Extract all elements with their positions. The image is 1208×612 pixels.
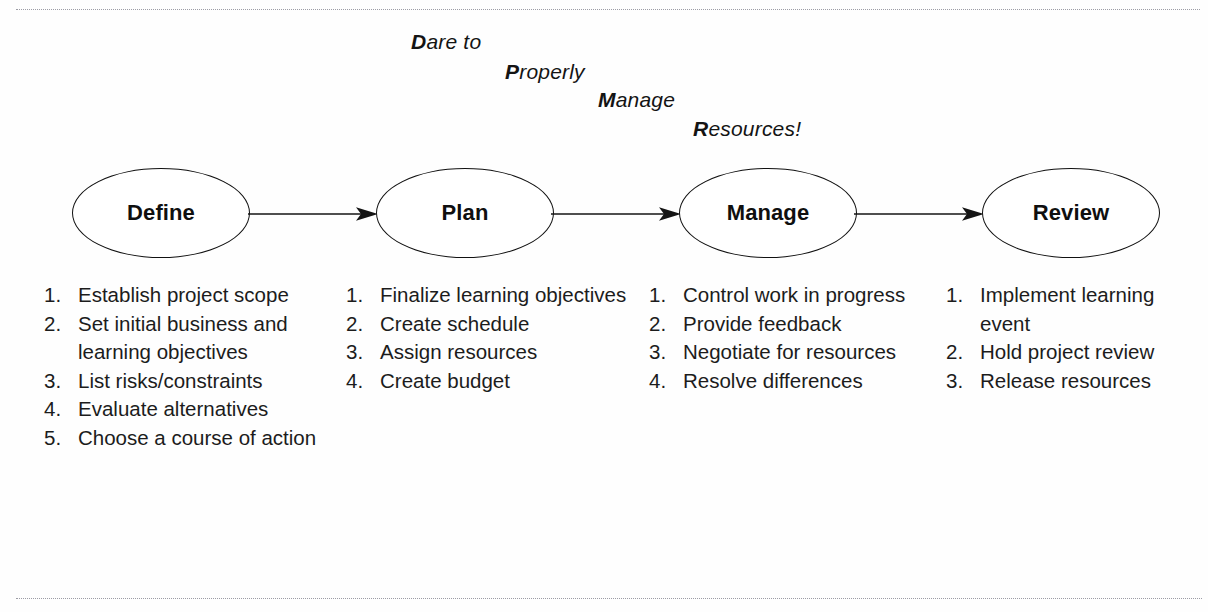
list-item-number: 4. <box>649 367 675 396</box>
mnemonic-initial: M <box>598 88 616 111</box>
list-item-label: Choose a course of action <box>78 424 334 453</box>
list-item-number: 1. <box>44 281 70 310</box>
mnemonic-line-resources: Resources! <box>693 117 801 141</box>
list-item-label: List risks/constraints <box>78 367 334 396</box>
list-item: 2.Hold project review <box>946 338 1208 367</box>
flow-node-label: Define <box>72 168 250 258</box>
list-item-number: 3. <box>44 367 70 396</box>
list-item: 3.Negotiate for resources <box>649 338 939 367</box>
list-item-label: Resolve differences <box>683 367 939 396</box>
mnemonic-line-properly: Properly <box>505 60 585 84</box>
list-item-label: Establish project scope <box>78 281 334 310</box>
arrow-plan-to-manage <box>551 206 683 222</box>
list-item: 2.Set initial business and learning obje… <box>44 310 334 367</box>
list-item-number: 2. <box>649 310 675 339</box>
task-column-manage: 1.Control work in progress 2.Provide fee… <box>649 281 939 395</box>
list-item-label: Negotiate for resources <box>683 338 939 367</box>
mnemonic-initial: D <box>411 30 426 53</box>
list-item: 4.Create budget <box>346 367 636 396</box>
list-item-label: Control work in progress <box>683 281 939 310</box>
flow-node-define: Define <box>72 168 250 258</box>
arrow-manage-to-review <box>854 206 986 222</box>
task-list: 1.Establish project scope 2.Set initial … <box>44 281 334 452</box>
list-item: 4.Evaluate alternatives <box>44 395 334 424</box>
mnemonic-initial: R <box>693 117 708 140</box>
diagram-canvas: Dare to Properly Manage Resources! Defin… <box>0 0 1208 612</box>
list-item-number: 4. <box>346 367 372 396</box>
task-column-review: 1.Implement learning event 2.Hold projec… <box>946 281 1208 395</box>
list-item-label: Implement learning event <box>980 281 1208 338</box>
list-item-number: 5. <box>44 424 70 453</box>
list-item-label: Finalize learning objectives <box>380 281 636 310</box>
flow-node-plan: Plan <box>376 168 554 258</box>
list-item-number: 2. <box>346 310 372 339</box>
list-item-number: 2. <box>946 338 972 367</box>
list-item-number: 1. <box>946 281 972 310</box>
list-item: 5.Choose a course of action <box>44 424 334 453</box>
flow-node-label: Review <box>982 168 1160 258</box>
top-divider-rule <box>16 9 1200 10</box>
list-item-number: 4. <box>44 395 70 424</box>
mnemonic-rest: are to <box>426 30 481 53</box>
bottom-divider-rule <box>16 598 1202 599</box>
flow-node-review: Review <box>982 168 1160 258</box>
flow-node-manage: Manage <box>679 168 857 258</box>
mnemonic-rest: anage <box>616 88 675 111</box>
list-item-label: Create schedule <box>380 310 636 339</box>
mnemonic-line-dare-to: Dare to <box>411 30 481 54</box>
list-item-label: Evaluate alternatives <box>78 395 334 424</box>
mnemonic-initial: P <box>505 60 519 83</box>
flow-node-label: Manage <box>679 168 857 258</box>
list-item: 1.Control work in progress <box>649 281 939 310</box>
list-item-number: 3. <box>649 338 675 367</box>
list-item-number: 1. <box>346 281 372 310</box>
list-item-label: Assign resources <box>380 338 636 367</box>
list-item: 3.Release resources <box>946 367 1208 396</box>
list-item-label: Provide feedback <box>683 310 939 339</box>
process-flow: Define Plan Manage <box>0 168 1208 268</box>
list-item: 1.Establish project scope <box>44 281 334 310</box>
task-column-define: 1.Establish project scope 2.Set initial … <box>44 281 334 452</box>
mnemonic-line-manage: Manage <box>598 88 675 112</box>
flow-node-label: Plan <box>376 168 554 258</box>
list-item-number: 3. <box>346 338 372 367</box>
list-item-number: 3. <box>946 367 972 396</box>
list-item: 2.Provide feedback <box>649 310 939 339</box>
task-list: 1.Finalize learning objectives 2.Create … <box>346 281 636 395</box>
arrow-define-to-plan <box>248 206 380 222</box>
list-item: 3.Assign resources <box>346 338 636 367</box>
list-item-label: Set initial business and learning object… <box>78 310 334 367</box>
list-item: 2.Create schedule <box>346 310 636 339</box>
list-item-number: 2. <box>44 310 70 339</box>
list-item-label: Hold project review <box>980 338 1208 367</box>
mnemonic-rest: esources! <box>708 117 801 140</box>
list-item-number: 1. <box>649 281 675 310</box>
list-item: 3.List risks/constraints <box>44 367 334 396</box>
task-list: 1.Implement learning event 2.Hold projec… <box>946 281 1208 395</box>
mnemonic-rest: roperly <box>519 60 585 83</box>
list-item-label: Release resources <box>980 367 1208 396</box>
task-list: 1.Control work in progress 2.Provide fee… <box>649 281 939 395</box>
list-item: 1.Implement learning event <box>946 281 1208 338</box>
list-item-label: Create budget <box>380 367 636 396</box>
list-item: 4.Resolve differences <box>649 367 939 396</box>
list-item: 1.Finalize learning objectives <box>346 281 636 310</box>
task-column-plan: 1.Finalize learning objectives 2.Create … <box>346 281 636 395</box>
